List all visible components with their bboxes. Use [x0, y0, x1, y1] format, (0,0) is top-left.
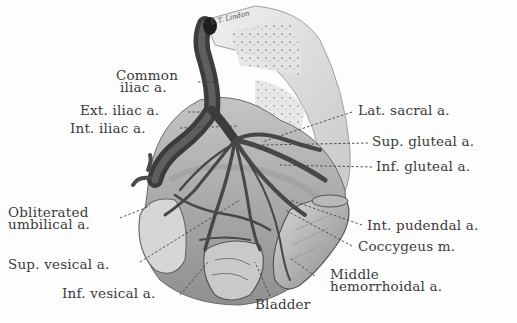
- label-coccygeus: Coccygeus m.: [358, 240, 455, 252]
- label-int-iliac: Int. iliac a.: [70, 122, 146, 134]
- label-sup-gluteal: Sup. gluteal a.: [372, 135, 474, 147]
- label-bladder: Bladder: [255, 298, 310, 310]
- label-inf-vesical: Inf. vesical a.: [62, 287, 156, 299]
- label-inf-gluteal: Inf. gluteal a.: [376, 160, 470, 172]
- anatomy-figure: E.T. Lindon Common iliac a. Ext. iliac a…: [0, 0, 517, 323]
- label-middle-hemorrhoidal-line2: hemorrhoidal a.: [330, 280, 442, 292]
- label-sup-vesical: Sup. vesical a.: [8, 258, 110, 270]
- label-lat-sacral: Lat. sacral a.: [358, 104, 450, 116]
- label-middle-hemorrhoidal: Middle hemorrhoidal a.: [330, 268, 442, 292]
- label-int-pudendal: Int. pudendal a.: [367, 219, 479, 231]
- label-obliterated-umbilical: Obliterated umbilical a.: [8, 206, 90, 230]
- label-obliterated-umbilical-line2: umbilical a.: [8, 218, 90, 230]
- label-common-iliac: Common iliac a.: [116, 69, 178, 93]
- label-ext-iliac: Ext. iliac a.: [80, 104, 159, 116]
